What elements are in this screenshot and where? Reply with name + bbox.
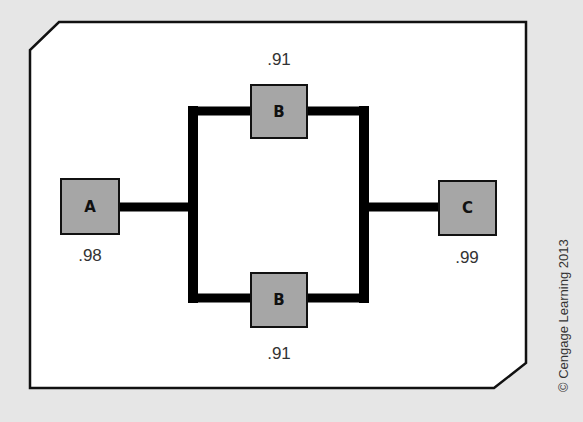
component-c-reliability: .99: [437, 248, 497, 268]
component-b-bottom: B: [250, 272, 308, 328]
copyright-credit: © Cengage Learning 2013: [556, 239, 571, 392]
component-a-reliability: .98: [60, 246, 120, 266]
component-b-top: B: [250, 84, 308, 139]
component-b-top-label: B: [273, 103, 284, 121]
component-c: C: [438, 180, 497, 236]
component-c-label: C: [462, 199, 473, 217]
component-b-bottom-label: B: [273, 291, 284, 309]
component-a-label: A: [84, 198, 96, 216]
component-b-bottom-reliability: .91: [249, 344, 309, 364]
component-a: A: [60, 178, 120, 235]
diagram-canvas: A .98 B .91 B .91 C .99 © Cengage Learni…: [0, 0, 583, 422]
component-b-top-reliability: .91: [249, 50, 309, 70]
